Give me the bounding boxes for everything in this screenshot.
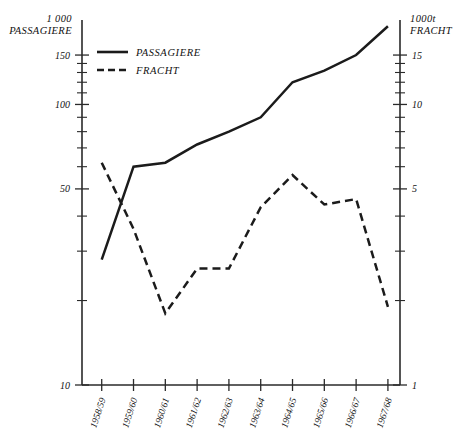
x-tick-label: 1963/64 (247, 396, 266, 429)
right-axis-ticks: 151051 (393, 50, 422, 391)
right-tick-label: 15 (412, 50, 422, 61)
x-axis-labels: 1958/591959/601960/611961/621962/631963/… (88, 395, 393, 429)
x-tick-label: 1960/61 (152, 397, 171, 430)
right-tick-label: 10 (412, 99, 422, 110)
left-axis-ticks: 1501005010 (55, 50, 89, 391)
series-line-fracht (102, 163, 388, 314)
left-tick-label: 10 (60, 380, 70, 391)
x-tick-label: 1966/67 (343, 395, 363, 429)
x-tick-label: 1962/63 (216, 396, 235, 429)
legend-label-passagiere: PASSAGIERE (135, 47, 201, 58)
chart-container: 1 000 PASSAGIERE 1000t FRACHT 1501005010… (0, 0, 462, 448)
left-tick-label: 50 (60, 183, 70, 194)
right-tick-label: 5 (412, 183, 417, 194)
x-tick-label: 1958/59 (88, 396, 107, 429)
x-tick-label: 1964/65 (279, 396, 298, 429)
right-tick-label: 1 (412, 380, 417, 391)
series-line-passagiere (102, 26, 388, 259)
legend-label-fracht: FRACHT (135, 65, 180, 76)
x-tick-label: 1967/68 (375, 396, 394, 429)
x-tick-label: 1965/66 (311, 396, 330, 429)
line-chart: 1 000 PASSAGIERE 1000t FRACHT 1501005010… (0, 0, 462, 448)
chart-legend: PASSAGIERE FRACHT (97, 47, 201, 76)
x-tick-label: 1959/60 (120, 396, 139, 429)
left-axis-title-line1: 1 000 (46, 13, 72, 24)
right-axis-title-line1: 1000t (410, 13, 437, 24)
x-tick-label: 1961/62 (184, 396, 203, 429)
left-tick-label: 100 (55, 99, 70, 110)
left-tick-label: 150 (55, 50, 70, 61)
right-axis-title-line2: FRACHT (409, 25, 453, 36)
left-axis-title-line2: PASSAGIERE (8, 25, 72, 36)
